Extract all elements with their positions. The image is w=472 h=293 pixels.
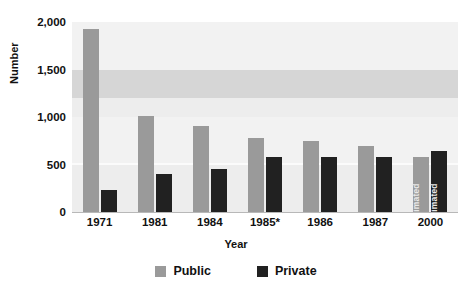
plot-area: estimatedestimated: [72, 22, 458, 212]
bar-private-2000: estimated: [431, 151, 447, 212]
bar-public-1986: [303, 141, 319, 212]
chart-figure: Number 05001,0001,5002,000 estimatedesti…: [0, 0, 472, 293]
legend-item-public: Public: [155, 264, 211, 278]
x-axis-tick-label: 2000: [418, 216, 444, 228]
bar-private-1987: [376, 157, 392, 212]
legend-label: Private: [275, 264, 317, 278]
bar-private-1971: [101, 190, 117, 212]
x-axis-tick-label: 1984: [197, 216, 223, 228]
bar-public-1987: [358, 146, 374, 213]
chart-legend: PublicPrivate: [0, 264, 472, 278]
background-band: [72, 22, 458, 70]
background-band: [72, 165, 458, 213]
y-axis-tick-label: 2,000: [14, 16, 66, 28]
x-axis-title: Year: [0, 238, 472, 250]
background-band: [72, 70, 458, 99]
y-axis-tick-label: 1,000: [14, 111, 66, 123]
bar-private-1981: [156, 174, 172, 212]
x-axis-line: [72, 212, 458, 213]
background-band: [72, 98, 458, 117]
x-axis-tick-label: 1986: [307, 216, 333, 228]
legend-swatch-private: [257, 266, 268, 277]
bar-public-1971: [83, 29, 99, 212]
bar-private-1985star: [266, 157, 282, 212]
legend-label: Public: [173, 264, 211, 278]
x-axis-tick-label: 1985*: [250, 216, 280, 228]
bar-annotation-estimated: estimated: [411, 183, 421, 212]
y-axis-tick-label: 1,500: [14, 64, 66, 76]
legend-item-private: Private: [257, 264, 317, 278]
bar-public-1981: [138, 116, 154, 212]
bar-public-1985star: [248, 138, 264, 212]
x-axis-tick-label: 1987: [362, 216, 388, 228]
bar-public-2000: estimated: [413, 157, 429, 212]
background-band: [72, 117, 458, 163]
y-axis-tick-label: 500: [14, 159, 66, 171]
bar-private-1984: [211, 169, 227, 212]
x-axis-tick-label: 1971: [87, 216, 113, 228]
x-axis-tick-labels: 1971198119841985*198619872000: [72, 216, 458, 236]
y-axis-tick-label: 0: [14, 206, 66, 218]
legend-swatch-public: [155, 266, 166, 277]
bar-annotation-estimated: estimated: [429, 183, 439, 212]
bar-public-1984: [193, 126, 209, 212]
bar-private-1986: [321, 157, 337, 212]
x-axis-tick-label: 1981: [142, 216, 168, 228]
